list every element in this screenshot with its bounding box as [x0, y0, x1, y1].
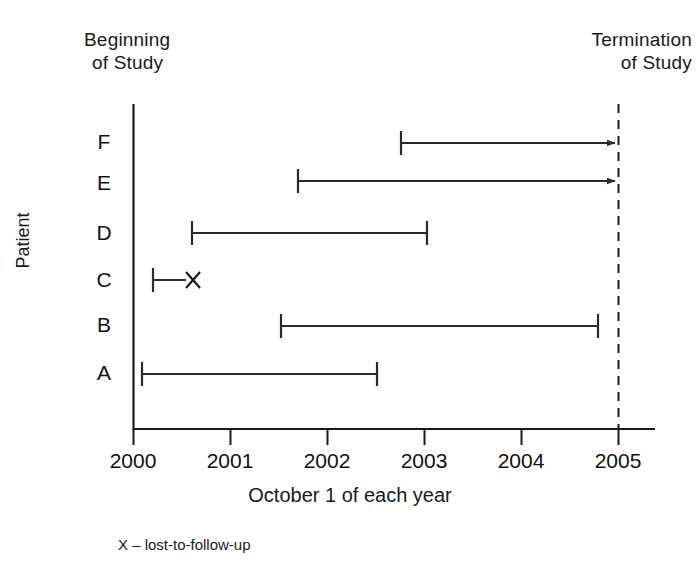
timeline-bar-d	[192, 221, 427, 245]
lost-to-follow-up-x-marker	[186, 272, 200, 288]
timeline-bar-c	[153, 268, 200, 292]
x-tick-label-2000: 2000	[98, 450, 168, 471]
x-tick-label-2002: 2002	[292, 450, 362, 471]
x-tick-label-2003: 2003	[389, 450, 459, 471]
x-tick-label-2001: 2001	[195, 450, 265, 471]
legend-footnote: X – lost-to-follow-up	[118, 536, 251, 553]
x-axis-title: October 1 of each year	[0, 484, 700, 507]
timeline-bar-e	[298, 169, 615, 193]
timeline-bar-a	[142, 362, 377, 386]
timeline-bar-f	[401, 131, 615, 155]
x-tick-label-2005: 2005	[583, 450, 653, 471]
x-axis-ticks	[134, 429, 619, 445]
x-tick-label-2004: 2004	[486, 450, 556, 471]
timeline-bar-b	[281, 314, 598, 338]
survival-timeline-chart: Beginningof Study Terminationof Study Pa…	[0, 0, 700, 585]
